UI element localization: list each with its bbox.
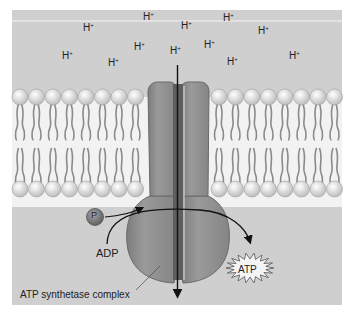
phosphate-label: P xyxy=(91,210,97,220)
atp-label: ATP xyxy=(238,264,257,275)
lipid-head xyxy=(12,181,28,197)
f0-left-subunit xyxy=(148,82,176,196)
lipid-head xyxy=(111,181,127,197)
lipid-head xyxy=(62,181,78,197)
lipid-head xyxy=(62,89,78,105)
lipid-head xyxy=(244,181,260,197)
lipid-head xyxy=(29,89,45,105)
lipid-head xyxy=(261,89,277,105)
proton-label: H+ xyxy=(170,45,181,56)
proton-label: H+ xyxy=(62,50,73,61)
lipid-head xyxy=(12,89,28,105)
proton-label: H+ xyxy=(181,20,192,31)
lipid-head xyxy=(294,89,310,105)
lipid-head xyxy=(45,181,61,197)
lipid-head xyxy=(327,181,343,197)
lipid-head xyxy=(310,89,326,105)
lipid-head xyxy=(228,181,244,197)
lipid-head xyxy=(310,181,326,197)
proton-label: H+ xyxy=(204,39,215,50)
proton-label: H+ xyxy=(108,57,119,68)
lipid-head xyxy=(211,181,227,197)
lipid-head xyxy=(78,89,94,105)
lipid-head xyxy=(95,181,111,197)
proton-label: H+ xyxy=(223,12,234,23)
lipid-head xyxy=(277,89,293,105)
lipid-head xyxy=(111,89,127,105)
lipid-head xyxy=(244,89,260,105)
proton-label: H+ xyxy=(258,25,269,36)
proton-label: H+ xyxy=(227,56,238,67)
lipid-head xyxy=(277,181,293,197)
proton-label: H+ xyxy=(289,50,300,61)
lipid-head xyxy=(95,89,111,105)
f0-right-subunit xyxy=(181,82,209,196)
lipid-head xyxy=(29,181,45,197)
proton-label: H+ xyxy=(83,22,94,33)
lipid-head xyxy=(78,181,94,197)
lipid-head xyxy=(211,89,227,105)
complex-label: ATP synthetase complex xyxy=(20,289,130,300)
lipid-head xyxy=(128,181,144,197)
lipid-head xyxy=(128,89,144,105)
lipid-head xyxy=(228,89,244,105)
lipid-head xyxy=(261,181,277,197)
adp-label: ADP xyxy=(96,247,119,259)
lipid-head xyxy=(327,89,343,105)
lipid-head xyxy=(45,89,61,105)
lipid-head xyxy=(294,181,310,197)
proton-label: H+ xyxy=(134,41,145,52)
proton-label: H+ xyxy=(143,11,154,22)
